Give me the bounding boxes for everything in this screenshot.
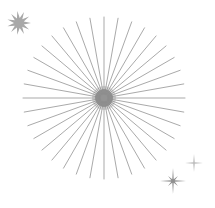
starburst-core xyxy=(95,89,113,107)
illustration-canvas xyxy=(0,0,215,208)
starburst-artwork xyxy=(0,0,215,208)
